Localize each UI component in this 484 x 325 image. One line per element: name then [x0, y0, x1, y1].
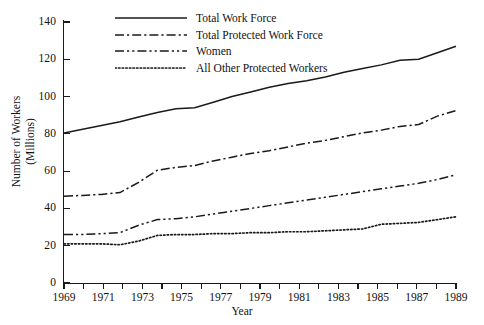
x-tick — [455, 284, 456, 289]
x-tick-label: 1973 — [122, 291, 162, 303]
x-tick — [318, 284, 319, 289]
x-tick — [299, 284, 300, 289]
x-tick — [103, 284, 104, 289]
y-axis-title-line-2: (Millions) — [23, 67, 37, 217]
x-tick — [161, 284, 162, 289]
x-tick — [181, 284, 182, 289]
x-tick-label: 1971 — [83, 291, 123, 303]
x-tick — [259, 284, 260, 289]
x-tick-label: 1969 — [44, 291, 84, 303]
y-tick-label: 140 — [0, 16, 56, 28]
x-tick — [83, 284, 84, 289]
series-line — [64, 111, 456, 197]
legend-item[interactable]: All Other Protected Workers — [115, 60, 327, 77]
legend-item-label: Total Work Force — [196, 12, 276, 24]
y-tick-label: 120 — [0, 53, 56, 65]
legend-item[interactable]: Women — [115, 43, 327, 60]
legend-item-label: Women — [196, 45, 231, 57]
y-tick-label: 20 — [0, 240, 56, 252]
x-tick-label: 1979 — [240, 291, 280, 303]
x-tick-label: 1983 — [318, 291, 358, 303]
x-tick — [201, 284, 202, 289]
legend-item-label: Total Protected Work Force — [196, 29, 323, 41]
chart-legend: Total Work ForceTotal Protected Work For… — [115, 10, 327, 76]
series-line — [64, 175, 456, 235]
legend-swatch-icon — [115, 45, 187, 57]
x-tick-label: 1975 — [162, 291, 202, 303]
x-axis-title: Year — [0, 305, 484, 317]
x-tick — [240, 284, 241, 289]
y-tick-label: 0 — [0, 277, 56, 289]
x-tick-label: 1981 — [279, 291, 319, 303]
x-tick-label: 1989 — [436, 291, 476, 303]
x-tick — [338, 284, 339, 289]
x-tick — [397, 284, 398, 289]
series-line — [64, 217, 456, 245]
x-tick — [220, 284, 221, 289]
legend-swatch-icon — [115, 29, 187, 41]
x-tick — [279, 284, 280, 289]
y-tick-label: 60 — [0, 165, 56, 177]
legend-item[interactable]: Total Protected Work Force — [115, 27, 327, 44]
legend-swatch-icon — [115, 62, 187, 74]
x-tick — [63, 284, 64, 289]
y-tick-label: 40 — [0, 202, 56, 214]
y-tick-label: 80 — [0, 128, 56, 140]
x-tick-label: 1977 — [201, 291, 241, 303]
x-tick — [416, 284, 417, 289]
x-tick — [436, 284, 437, 289]
x-tick — [357, 284, 358, 289]
x-tick — [142, 284, 143, 289]
line-chart: Number of Workers (Millions) 02040608010… — [0, 0, 484, 325]
x-tick — [122, 284, 123, 289]
x-tick-label: 1987 — [397, 291, 437, 303]
y-axis-title-line-1: Number of Workers — [10, 67, 24, 217]
legend-swatch-icon — [115, 12, 187, 24]
x-tick-label: 1985 — [358, 291, 398, 303]
y-tick-label: 100 — [0, 91, 56, 103]
x-tick — [377, 284, 378, 289]
y-axis-title: Number of Workers (Millions) — [10, 67, 37, 217]
legend-item[interactable]: Total Work Force — [115, 10, 327, 27]
legend-item-label: All Other Protected Workers — [196, 62, 327, 74]
